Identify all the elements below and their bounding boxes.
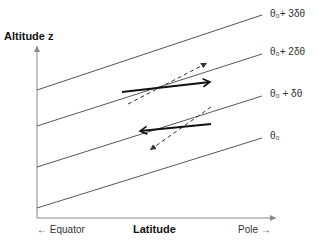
isentrope-theta0-plus-2dtheta — [37, 54, 262, 126]
isentrope-label-1: θ₀ + δθ — [270, 88, 302, 99]
upper-solid-arrow — [122, 82, 210, 92]
isentrope-label-3: θ₀+ 3δθ — [270, 8, 305, 19]
pole-label: Pole → — [238, 224, 271, 235]
isentrope-label-2: θ₀+ 2δθ — [270, 46, 305, 57]
isentrope-theta0 — [37, 138, 262, 208]
isentrope-label-0: θ₀ — [270, 130, 280, 141]
isentrope-theta0-plus-3dtheta — [37, 15, 262, 90]
x-axis-label: Latitude — [133, 223, 176, 235]
equator-label: ← Equator — [37, 224, 85, 235]
isentrope-theta0-plus-dtheta — [37, 96, 262, 167]
lower-solid-arrow — [140, 124, 211, 131]
y-axis-label: Altitude z — [4, 30, 54, 42]
